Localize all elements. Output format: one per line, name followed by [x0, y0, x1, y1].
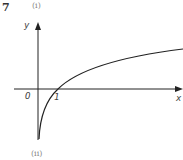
- tick-label-1: 1: [54, 92, 59, 102]
- y-axis-arrow-icon: [35, 22, 41, 30]
- x-axis-arrow-icon: [175, 86, 183, 92]
- part-label-ii: (ii): [31, 149, 42, 158]
- y-axis-label: y: [24, 20, 29, 30]
- log-curve: [39, 49, 183, 139]
- origin-label: O: [25, 91, 30, 101]
- x-axis-label: x: [176, 93, 181, 103]
